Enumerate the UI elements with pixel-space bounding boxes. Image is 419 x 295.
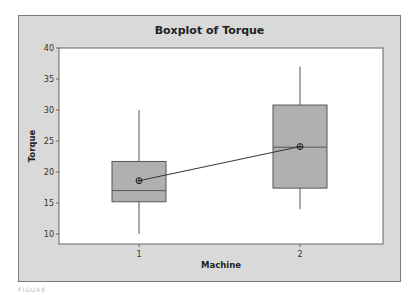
plot-area — [59, 48, 383, 244]
y-tick-label: 15 — [44, 199, 54, 208]
boxplot-chart: 10152025303540Torque12Machine — [0, 0, 419, 295]
x-axis-label: Machine — [201, 260, 241, 270]
y-tick-label: 35 — [44, 75, 54, 84]
y-tick-label: 20 — [44, 168, 54, 177]
y-tick-label: 10 — [44, 230, 54, 239]
figure-caption: FIGURE — [18, 286, 46, 293]
y-tick-label: 30 — [44, 106, 54, 115]
y-axis-label: Torque — [27, 129, 37, 162]
y-tick-label: 40 — [44, 44, 54, 53]
y-tick-label: 25 — [44, 137, 54, 146]
x-tick-label: 2 — [297, 250, 302, 259]
x-tick-label: 1 — [136, 250, 141, 259]
